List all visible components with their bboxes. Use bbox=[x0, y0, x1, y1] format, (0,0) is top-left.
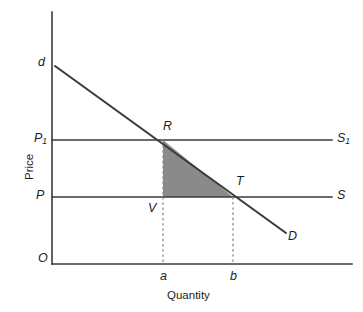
demand-curve-origin-label: d bbox=[38, 56, 45, 69]
point-label-t: T bbox=[236, 175, 244, 188]
point-label-v: V bbox=[148, 202, 156, 215]
x-axis-title: Quantity bbox=[167, 290, 210, 302]
demand-curve-end-label: D bbox=[288, 230, 297, 243]
price-tick-p1-subscript: 1 bbox=[42, 136, 47, 146]
supply-line-s1-label: S1 bbox=[337, 132, 350, 146]
price-tick-p1-label: P1 bbox=[34, 132, 47, 146]
origin-label: O bbox=[38, 252, 48, 265]
demand-curve-line bbox=[55, 66, 286, 233]
supply-demand-figure: d D P1 P S1 S R T V O a b Price Quantity bbox=[0, 0, 363, 312]
quantity-tick-b-label: b bbox=[230, 270, 237, 283]
price-tick-p-label: P bbox=[36, 189, 44, 202]
quantity-tick-a-label: a bbox=[160, 270, 167, 283]
supply-s1-subscript: 1 bbox=[345, 136, 350, 146]
supply-line-s-label: S bbox=[337, 189, 345, 202]
y-axis-title: Price bbox=[24, 154, 36, 180]
figure-canvas bbox=[0, 0, 363, 312]
point-label-r: R bbox=[163, 120, 172, 133]
